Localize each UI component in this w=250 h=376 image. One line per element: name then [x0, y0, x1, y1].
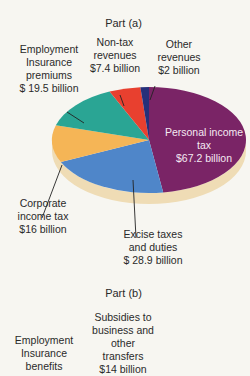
label-subsidies: Subsidies tobusiness andothertransfers$1… [88, 311, 158, 376]
label-non-tax: Non-taxrevenues$7.4 billion [86, 36, 144, 75]
chart-title-part-b: Part (b) [0, 287, 247, 299]
label-excise-taxes: Excise taxesand duties$ 28.9 billion [113, 228, 193, 267]
label-ei-premiums: EmploymentInsurancepremiums$ 19.5 billio… [14, 43, 84, 95]
label-corporate-income-tax: Corporateincome tax$16 billion [8, 197, 78, 236]
label-other-revenues: Otherrevenues$2 billion [150, 38, 208, 77]
chart-title-part-a: Part (a) [0, 17, 247, 29]
label-personal-income-tax: Personal incometax$67.2 billion [158, 126, 250, 165]
label-ei-benefits: EmploymentInsurancebenefits [9, 334, 79, 373]
